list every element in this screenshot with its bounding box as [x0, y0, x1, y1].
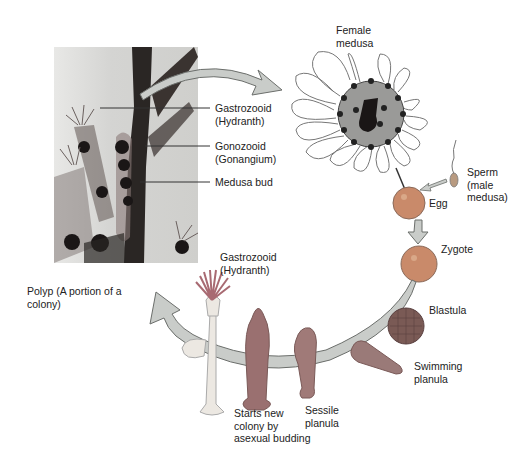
blastula-label: Blastula	[429, 304, 466, 317]
swimming-planula-label: Swimming planula	[414, 360, 462, 385]
medusa-bud-label: Medusa bud	[215, 176, 273, 189]
gastrozooid-polyp-icon	[182, 270, 230, 415]
egg-icon	[393, 187, 425, 219]
polyp-label: Polyp (A portion of a colony)	[27, 285, 122, 310]
egg-label: Egg	[429, 197, 448, 210]
zygote-label: Zygote	[441, 243, 473, 256]
life-cycle-diagram	[0, 0, 529, 461]
gastrozooid-polyp-label: Gastrozooid (Hydranth)	[220, 251, 277, 276]
zygote-icon	[401, 246, 437, 282]
swimming-planula-icon	[351, 341, 402, 374]
egg-to-zygote-arrow-icon	[408, 220, 428, 244]
gastrozooid-label: Gastrozooid (Hydranth)	[215, 102, 272, 127]
sperm-icon	[450, 140, 458, 187]
sperm-label: Sperm (male medusa)	[467, 166, 508, 204]
sperm-to-egg-arrow-icon	[420, 179, 447, 191]
female-medusa-icon	[292, 52, 428, 173]
female-medusa-label: Female medusa	[336, 24, 373, 49]
gonozooid-label: Gonozooid (Gonangium)	[215, 140, 276, 165]
budding-polyp-icon	[243, 308, 271, 410]
sessile-planula-icon	[294, 328, 316, 398]
new-colony-label: Starts new colony by asexual budding	[234, 407, 310, 445]
arrow-to-medusa-icon	[140, 69, 282, 100]
blastula-icon	[388, 308, 424, 344]
photo-leader-lines	[100, 108, 210, 182]
